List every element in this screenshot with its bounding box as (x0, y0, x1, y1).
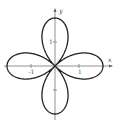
x-axis-label: x (108, 56, 112, 64)
y-axis-arrow-icon (54, 8, 57, 12)
x-axis-arrow-icon (109, 65, 113, 68)
polar-rose-chart: -1 1 1 x y (0, 0, 116, 123)
x-tick-label-neg1: -1 (29, 68, 35, 75)
y-axis-label: y (58, 7, 63, 15)
x-tick-label-1: 1 (78, 68, 82, 75)
y-tick-label-1: 1 (49, 38, 53, 45)
